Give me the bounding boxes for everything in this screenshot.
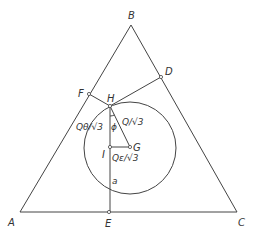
point-g bbox=[128, 145, 131, 148]
label-e: E bbox=[105, 218, 112, 229]
point-f bbox=[87, 92, 90, 95]
point-h bbox=[108, 104, 111, 107]
label-i: I bbox=[102, 149, 105, 160]
label-g: G bbox=[133, 142, 141, 153]
label-f: F bbox=[78, 88, 84, 99]
diagram-canvas: B A C E D F H I G Qθ/√3 Q/√3 Qε/√3 ϕ a bbox=[0, 0, 256, 232]
label-q-epsilon: Qε/√3 bbox=[112, 153, 139, 163]
label-h: H bbox=[107, 93, 115, 104]
point-e bbox=[107, 210, 110, 213]
label-q: Q/√3 bbox=[122, 117, 144, 127]
segment-hd bbox=[110, 77, 161, 106]
label-a-lower: a bbox=[112, 176, 118, 186]
label-d: D bbox=[165, 66, 173, 77]
label-a: A bbox=[7, 217, 15, 228]
label-b: B bbox=[128, 10, 135, 21]
point-d bbox=[159, 75, 162, 78]
point-i bbox=[108, 145, 111, 148]
label-phi: ϕ bbox=[111, 122, 117, 132]
label-q-theta: Qθ/√3 bbox=[76, 122, 103, 132]
label-c: C bbox=[238, 217, 245, 228]
angle-phi-arc bbox=[110, 115, 114, 116]
geometry-diagram: B A C E D F H I G Qθ/√3 Q/√3 Qε/√3 ϕ a bbox=[0, 0, 256, 232]
